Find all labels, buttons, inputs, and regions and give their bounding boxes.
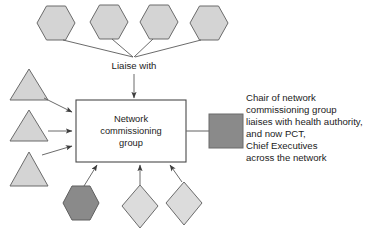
connector-bottom-hexagon [84, 165, 97, 186]
connector-hexagon-4 [135, 40, 201, 57]
top-hexagon-2[interactable] [90, 5, 128, 39]
left-triangle-1[interactable] [10, 69, 48, 100]
central-box-line-2: commissioning [100, 126, 161, 136]
connector-bottom-diamond-2 [170, 165, 182, 182]
bottom-diamond-1[interactable] [122, 185, 158, 228]
left-triangle-3[interactable] [10, 152, 48, 186]
right-square-dark[interactable] [209, 114, 243, 148]
connector-triangle-3 [42, 146, 72, 155]
chair-annotation-line-4: and now PCT, [246, 128, 306, 139]
chair-annotation-line-6: across the network [246, 152, 327, 163]
chair-annotation-line-1: Chair of network [246, 92, 316, 103]
liaise-with-label: Liaise with [112, 60, 157, 71]
diagram-svg: Liaise with Network commissioning group … [0, 0, 388, 240]
bottom-hexagon-dark[interactable] [63, 186, 99, 220]
chair-annotation-line-5: Chief Executives [246, 140, 318, 151]
central-box-line-1: Network [114, 114, 148, 124]
connector-triangle-1 [44, 98, 72, 112]
connector-hexagon-3 [134, 39, 153, 57]
top-hexagon-4[interactable] [190, 6, 228, 40]
diagram-canvas: Liaise with Network commissioning group … [0, 0, 388, 240]
top-hexagon-1[interactable] [37, 6, 75, 40]
bottom-diamond-2[interactable] [166, 182, 202, 225]
chair-annotation-line-3: liaises with health authority, [246, 116, 363, 127]
top-hexagon-3[interactable] [140, 5, 178, 39]
left-triangle-2[interactable] [10, 110, 48, 141]
chair-annotation-line-2: commissioning group [246, 104, 337, 115]
central-box-line-3: group [119, 138, 143, 148]
